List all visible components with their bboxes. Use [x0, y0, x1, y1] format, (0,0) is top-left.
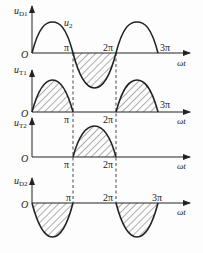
- x-axis-label: ωt: [177, 161, 186, 171]
- plot-uT2: uT2 O π 2π ωt: [14, 117, 190, 171]
- x-axis-label: ωt: [177, 116, 186, 126]
- tick-2pi: 2π: [103, 192, 113, 203]
- hatched-region-uT1-b: [116, 80, 158, 112]
- tick-pi: π: [64, 159, 69, 170]
- ylabel-uD1: uD1: [14, 5, 28, 18]
- hatched-region-uD1: [73, 53, 116, 88]
- plot-uD1: uD1 u2 O π 2π 3π ωt: [14, 5, 190, 88]
- origin-label: O: [21, 108, 28, 119]
- tick-2pi: 2π: [103, 114, 113, 125]
- origin-label: O: [21, 153, 28, 164]
- tick-3pi: 3π: [152, 192, 162, 203]
- ylabel-uT1: uT1: [14, 64, 27, 77]
- tick-pi: π: [66, 192, 71, 203]
- x-axis-label: ωt: [177, 207, 186, 217]
- tick-2pi: 2π: [103, 159, 113, 170]
- tick-3pi: 3π: [160, 42, 170, 53]
- plot-uD2: uD2 O π 2π 3π ωt: [14, 175, 190, 237]
- hatched-region-uD2-b: [116, 203, 158, 237]
- origin-label: O: [21, 49, 28, 60]
- x-axis-label: ωt: [177, 58, 186, 68]
- origin-label: O: [21, 199, 28, 210]
- curve-label-u2: u2: [64, 17, 73, 30]
- tick-pi: π: [64, 114, 69, 125]
- tick-pi: π: [64, 42, 69, 53]
- tick-3pi: 3π: [160, 99, 170, 110]
- hatched-region-uT2: [73, 126, 116, 157]
- ylabel-uD2: uD2: [14, 175, 28, 188]
- tick-2pi: 2π: [103, 42, 113, 53]
- waveform-diagram: uD1 u2 O π 2π 3π ωt uT1 O π 2π 3π ωt uT2…: [0, 0, 203, 253]
